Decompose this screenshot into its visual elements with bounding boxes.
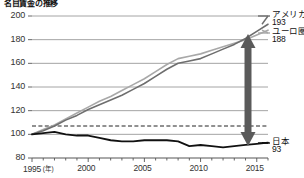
series-value-japan: 93 [272, 144, 281, 154]
y-axis-tick-label: 180 [1, 34, 25, 44]
series-value-eurozone: 188 [272, 34, 286, 44]
y-axis-tick-label: 120 [1, 105, 25, 115]
y-axis-tick-label: 140 [1, 81, 25, 91]
x-axis-tick-label: 1995 (年) [23, 163, 53, 174]
gap-double-arrow-annotation [241, 34, 256, 146]
x-axis-tick-label: 2000 [77, 163, 95, 173]
chart-plot-area [0, 0, 304, 178]
x-axis-unit-label: (年) [41, 165, 53, 172]
leader-line [262, 16, 268, 24]
series-leader-lines [258, 16, 270, 143]
x-axis-tick-label: 2015 [246, 163, 264, 173]
y-axis-tick-label: 200 [1, 10, 25, 20]
y-axis-tick-label: 80 [1, 152, 25, 162]
x-axis-tick-label: 2010 [190, 163, 208, 173]
series-lines [32, 24, 268, 147]
wage-index-chart: 名目賃金の推移 80100120140160180200 1995 (年)200… [0, 0, 304, 178]
x-axis-tick-label: 2005 [133, 163, 151, 173]
y-axis-tick-label: 100 [1, 128, 25, 138]
y-axis-tick-label: 160 [1, 57, 25, 67]
